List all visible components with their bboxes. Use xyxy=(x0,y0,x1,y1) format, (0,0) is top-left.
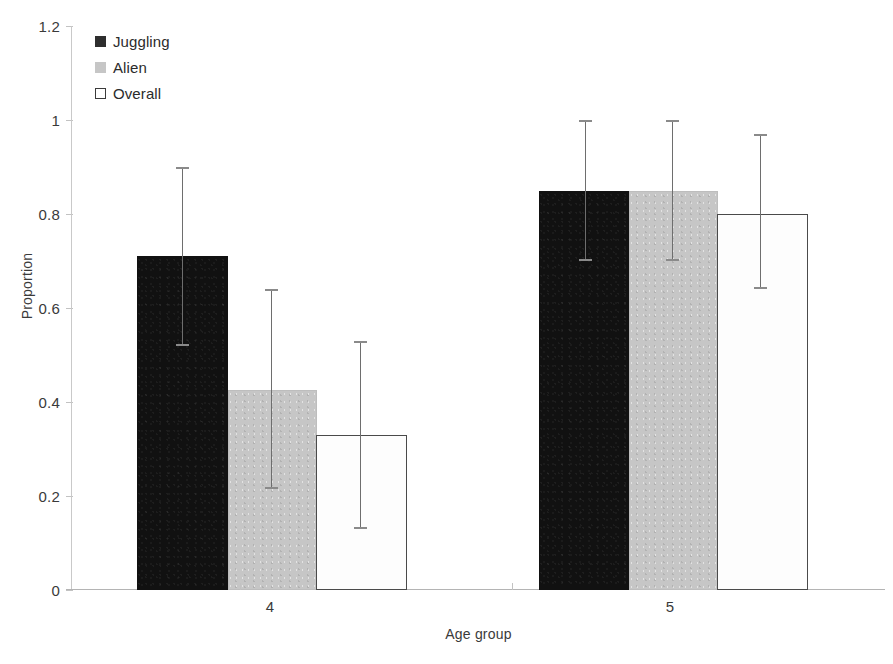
y-tick-label: 1 xyxy=(14,112,60,129)
error-bar-cap-upper xyxy=(579,120,592,122)
x-tick-label: 5 xyxy=(666,598,674,615)
error-bar-cap-lower xyxy=(666,259,679,261)
x-tick-label: 4 xyxy=(266,598,274,615)
plot-area xyxy=(72,26,885,590)
error-bar-cap-lower xyxy=(754,287,767,289)
error-bar-whisker xyxy=(585,120,586,261)
legend-item-alien: Alien xyxy=(95,54,170,80)
y-tick-mark xyxy=(66,590,73,591)
legend-swatch-overall-icon xyxy=(95,88,106,99)
x-axis-title: Age group xyxy=(445,626,511,642)
error-bar-overall-age-4 xyxy=(353,341,368,529)
error-bar-alien-age-5 xyxy=(665,120,680,261)
error-bar-cap-upper xyxy=(754,134,767,136)
error-bar-whisker xyxy=(760,134,761,289)
error-bar-juggling-age-4 xyxy=(175,167,190,346)
y-tick-label: 0.8 xyxy=(14,206,60,223)
error-bar-whisker xyxy=(271,289,272,489)
y-tick-label: 0.2 xyxy=(14,488,60,505)
error-bar-cap-lower xyxy=(579,259,592,261)
legend-label: Overall xyxy=(113,85,161,102)
error-bar-overall-age-5 xyxy=(753,134,768,289)
error-bar-whisker xyxy=(360,341,361,529)
error-bar-cap-upper xyxy=(265,289,278,291)
error-bar-whisker xyxy=(672,120,673,261)
legend-item-overall: Overall xyxy=(95,80,170,106)
error-bar-juggling-age-5 xyxy=(578,120,593,261)
error-bar-alien-age-4 xyxy=(264,289,279,489)
legend-swatch-alien-icon xyxy=(95,62,106,73)
legend: JugglingAlienOverall xyxy=(95,28,170,106)
y-tick-label: 1.2 xyxy=(14,18,60,35)
y-tick-label: 0 xyxy=(14,582,60,599)
error-bar-cap-lower xyxy=(354,527,367,529)
error-bar-cap-lower xyxy=(176,344,189,346)
legend-label: Alien xyxy=(113,59,147,76)
error-bar-cap-lower xyxy=(265,487,278,489)
x-axis-title-container: Age group xyxy=(0,626,893,642)
x-tick-mark xyxy=(240,583,241,590)
error-bar-cap-upper xyxy=(666,120,679,122)
y-tick-label: 0.4 xyxy=(14,394,60,411)
legend-label: Juggling xyxy=(113,33,170,50)
legend-item-juggling: Juggling xyxy=(95,28,170,54)
error-bar-whisker xyxy=(182,167,183,346)
error-bar-cap-upper xyxy=(176,167,189,169)
y-tick-label: 0.6 xyxy=(14,300,60,317)
bar-chart: Proportion 00.20.40.60.811.2 45 Age grou… xyxy=(0,0,893,664)
error-bar-cap-upper xyxy=(354,341,367,343)
legend-swatch-juggling-icon xyxy=(95,36,106,47)
x-tick-mark xyxy=(512,583,513,590)
